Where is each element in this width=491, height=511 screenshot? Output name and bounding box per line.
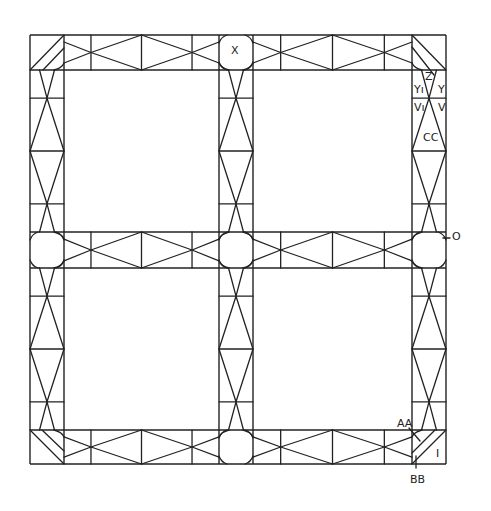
label-y-left: Yı: [413, 83, 424, 96]
block-corner-curve: [54, 63, 64, 70]
cornerstone-clip: [30, 260, 38, 268]
cornerstone-clip: [438, 260, 446, 268]
label-v-right: V: [438, 101, 446, 114]
label-cc: CC: [423, 131, 439, 144]
block-corner-curve: [54, 430, 64, 437]
piece-labels: XZYıYVıVCCOAAIBB: [231, 44, 461, 486]
diagram-canvas: XZYıYVıVCCOAAIBB: [0, 0, 491, 511]
label-v-left: Vı: [414, 101, 425, 114]
sashing-strips: [30, 35, 446, 464]
cornerstone-clip: [245, 35, 253, 43]
cornerstone-clip: [219, 35, 227, 43]
cornerstone-clip: [219, 456, 227, 464]
quilt-diagram: XZYıYVıVCCOAAIBB: [0, 0, 491, 511]
label-x: X: [231, 44, 239, 57]
label-aa: AA: [397, 417, 413, 430]
cornerstone-clip: [438, 232, 446, 240]
cornerstone-clip: [245, 456, 253, 464]
cornerstone-clip: [30, 232, 38, 240]
label-y-right: Y: [437, 83, 445, 96]
label-z: Z: [425, 70, 433, 83]
block-corner-curve: [412, 63, 422, 70]
label-o: O: [452, 230, 461, 243]
label-bb: BB: [410, 473, 425, 486]
label-i: I: [436, 447, 439, 460]
